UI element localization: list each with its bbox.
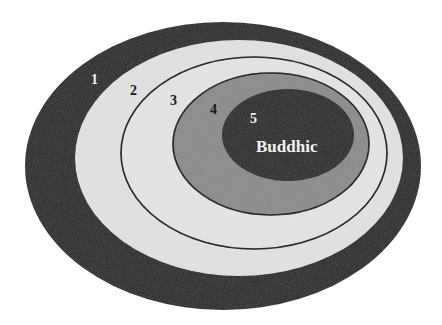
level-2-label: 2 — [130, 83, 137, 98]
level-5-name: Buddhic — [256, 137, 318, 156]
nested-ellipse-diagram: 1 2 3 4 5 Buddhic — [0, 0, 442, 325]
level-4-label: 4 — [210, 102, 217, 117]
level-3-label: 3 — [170, 93, 177, 108]
level-5-label: 5 — [250, 111, 257, 126]
level-5-ellipse — [222, 89, 354, 181]
level-1-label: 1 — [91, 72, 98, 87]
